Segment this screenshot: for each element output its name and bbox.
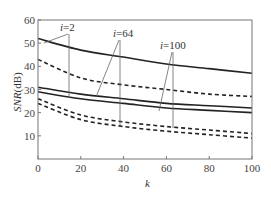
annotation-i64: i=64	[96, 27, 134, 127]
y-tick-label: 50	[24, 37, 36, 49]
axes: 020406080100102030405060	[24, 14, 261, 174]
curve-i-64-dashed	[38, 99, 252, 134]
plot-frame	[38, 20, 252, 159]
plot-area	[38, 39, 252, 139]
annotation-i100: i=100	[159, 39, 186, 128]
y-tick-label: 30	[24, 84, 36, 96]
x-tick-label: 20	[75, 162, 87, 174]
y-tick-label: 40	[24, 60, 36, 72]
x-axis-label: k	[145, 177, 151, 189]
x-tick-label: 80	[204, 162, 216, 174]
x-tick-label: 100	[244, 162, 261, 174]
curve-i-2-solid	[38, 39, 252, 74]
x-tick-label: 60	[161, 162, 173, 174]
curve-i-100-dashed	[38, 103, 252, 138]
leader-line	[44, 34, 68, 43]
annotation-label-i64: i=64	[113, 27, 134, 39]
annotation-i2: i=2	[44, 21, 75, 98]
leader-line	[96, 40, 119, 97]
y-axis-label: SNR(dB)	[11, 72, 24, 112]
curve-i-100-solid	[38, 92, 252, 113]
snr-chart: 020406080100102030405060 k SNR(dB) i=2i=…	[0, 0, 271, 197]
y-tick-label: 60	[24, 14, 36, 26]
x-tick-label: 0	[35, 162, 41, 174]
y-tick-label: 20	[24, 107, 36, 119]
leader-line	[159, 52, 172, 111]
annotation-label-i2: i=2	[60, 21, 75, 33]
curve-i-2-dashed	[38, 59, 252, 96]
x-tick-label: 40	[118, 162, 130, 174]
annotation-label-i100: i=100	[160, 39, 186, 51]
y-tick-label: 10	[24, 130, 36, 142]
